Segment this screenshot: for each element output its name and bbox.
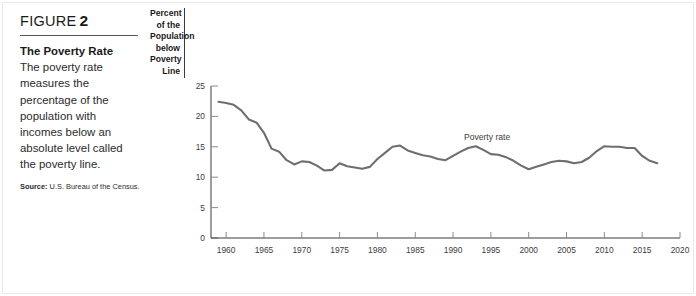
y-tick-label: 0 (200, 233, 205, 243)
source-label: Source: (20, 182, 48, 191)
figure-eyebrow-word: FIGURE (20, 13, 77, 29)
figure-number: 2 (80, 12, 89, 29)
y-tick-label: 20 (196, 111, 206, 121)
figure-eyebrow: FIGURE2 (20, 12, 140, 30)
y-tick-label: 5 (200, 203, 205, 213)
poverty-rate-line-chart: 0510152025 19601965197019751980198519901… (150, 6, 690, 290)
x-axis-ticks (226, 232, 680, 238)
x-tick-label: 1965 (255, 245, 274, 255)
figure-container: FIGURE2 The Poverty Rate The poverty rat… (0, 0, 696, 296)
y-tick-label: 15 (196, 142, 206, 152)
x-tick-label: 2010 (595, 245, 614, 255)
x-tick-label: 1980 (368, 245, 387, 255)
x-tick-label: 1990 (444, 245, 463, 255)
x-tick-label: 2015 (633, 245, 652, 255)
x-tick-label: 1960 (217, 245, 236, 255)
caption-body-text: The poverty rate measures the percentage… (20, 59, 140, 172)
x-tick-label: 1995 (482, 245, 501, 255)
poverty-rate-series-line (219, 102, 658, 171)
x-tick-label: 1985 (406, 245, 425, 255)
caption-panel: FIGURE2 The Poverty Rate The poverty rat… (20, 12, 140, 191)
x-tick-label: 2000 (519, 245, 538, 255)
y-axis-group: 0510152025 (196, 81, 218, 243)
caption-divider-rule (20, 35, 138, 36)
chart-panel: Percent of the Population below Poverty … (150, 6, 690, 290)
x-tick-label: 1975 (330, 245, 349, 255)
y-tick-label: 25 (196, 81, 206, 91)
caption-source: Source: U.S. Bureau of the Census. (20, 182, 140, 192)
x-tick-label: 2020 (671, 245, 690, 255)
source-text: U.S. Bureau of the Census. (50, 182, 140, 191)
caption-title: The Poverty Rate (20, 44, 140, 58)
x-axis-group: 1960196519701975198019851990199520002005… (211, 232, 690, 255)
series-annotation-label: Poverty rate (464, 132, 511, 142)
y-axis-tick-labels: 0510152025 (196, 81, 206, 243)
x-tick-label: 2005 (557, 245, 576, 255)
chart-annotations: Poverty rate (464, 132, 511, 142)
x-axis-tick-labels: 1960196519701975198019851990199520002005… (217, 245, 690, 255)
y-tick-label: 10 (196, 172, 206, 182)
x-tick-label: 1970 (292, 245, 311, 255)
y-axis-ticks (211, 86, 218, 238)
